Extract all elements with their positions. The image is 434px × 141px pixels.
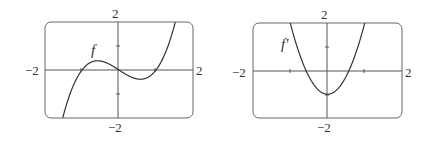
- function-label-f-prime: f′: [281, 38, 288, 51]
- x-min-label: −2: [232, 66, 246, 79]
- y-min-label: −2: [108, 121, 122, 134]
- function-label-f: f: [91, 44, 95, 57]
- y-min-label: −2: [317, 121, 331, 134]
- graphs-canvas: [0, 0, 434, 141]
- x-min-label: −2: [25, 64, 39, 77]
- y-max-label: 2: [112, 7, 119, 20]
- plot-f: [45, 22, 193, 118]
- x-max-label: 2: [196, 64, 203, 77]
- y-max-label: 2: [321, 8, 328, 21]
- plot-f-prime: [253, 23, 402, 118]
- x-max-label: 2: [405, 66, 412, 79]
